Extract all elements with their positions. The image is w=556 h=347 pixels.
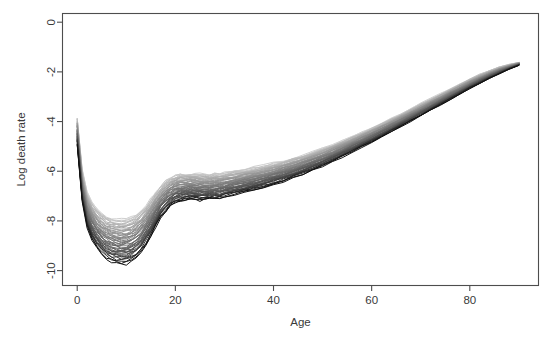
x-axis-title: Age [290,316,310,328]
x-axis-tick-label: 60 [365,294,378,306]
y-axis-tick-label: -10 [46,262,58,279]
y-axis-tick-label: 0 [46,19,58,25]
mortality-fan-chart-figure: 0-2-4-6-8-10020406080AgeLog death rate [0,0,556,347]
y-axis-tick-label: -2 [46,67,58,77]
y-axis-title: Log death rate [15,112,27,186]
chart-canvas: 0-2-4-6-8-10020406080AgeLog death rate [0,0,556,347]
y-axis-tick-label: -8 [46,216,58,226]
x-axis-tick-label: 80 [463,294,476,306]
x-axis-tick-label: 20 [169,294,182,306]
x-axis-tick-label: 40 [267,294,280,306]
y-axis-tick-label: -6 [46,166,58,176]
y-axis-tick-label: -4 [46,116,58,127]
x-axis-tick-label: 0 [74,294,80,306]
